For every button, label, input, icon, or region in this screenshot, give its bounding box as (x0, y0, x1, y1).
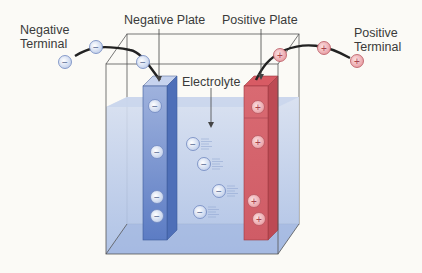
svg-text:−: − (140, 57, 146, 68)
ion-positive-wire-icon: + (274, 49, 287, 62)
svg-text:−: − (152, 101, 158, 112)
positive-terminal-label-2: Terminal (354, 40, 401, 54)
svg-text:−: − (216, 186, 222, 197)
negative-terminal-label-2: Terminal (20, 37, 67, 51)
ion-negative-terminal-icon: − (59, 56, 72, 69)
svg-text:−: − (201, 159, 207, 170)
svg-text:+: + (256, 214, 262, 225)
electrolyte-label: Electrolyte (182, 75, 240, 89)
svg-text:−: − (197, 207, 203, 218)
svg-text:+: + (277, 50, 283, 61)
positive-terminal-label: Positive (354, 26, 398, 40)
ion-positive-wire-icon: + (318, 42, 331, 55)
negative-terminal-label: Negative (20, 23, 69, 37)
positive-plate-label: Positive Plate (222, 13, 298, 27)
ion-positive-plate-icon: + (253, 213, 266, 226)
ion-positive-plate-icon: + (252, 136, 265, 149)
ion-positive-terminal-icon: + (351, 55, 364, 68)
positive-wire (256, 45, 350, 80)
ion-negative-wire-icon: − (137, 56, 150, 69)
ion-negative-plate-icon: − (151, 146, 164, 159)
ion-negative-wire-icon: − (90, 41, 103, 54)
svg-text:+: + (255, 102, 261, 113)
ion-negative-plate-icon: − (151, 191, 164, 204)
svg-text:−: − (190, 139, 196, 150)
negative-plate-label: Negative Plate (124, 13, 205, 27)
svg-text:+: + (255, 137, 261, 148)
svg-text:−: − (93, 42, 99, 53)
ion-positive-plate-icon: + (252, 101, 265, 114)
svg-text:+: + (321, 43, 327, 54)
svg-text:−: − (154, 147, 160, 158)
battery-diagram: Negative Terminal Negative Plate Positiv… (0, 0, 422, 273)
svg-text:−: − (62, 57, 68, 68)
ion-positive-plate-icon: + (248, 195, 261, 208)
ion-negative-plate-icon: − (151, 210, 164, 223)
svg-text:−: − (154, 192, 160, 203)
svg-text:+: + (354, 56, 360, 67)
ion-negative-plate-icon: − (149, 100, 162, 113)
svg-text:+: + (251, 196, 257, 207)
svg-text:−: − (154, 211, 160, 222)
